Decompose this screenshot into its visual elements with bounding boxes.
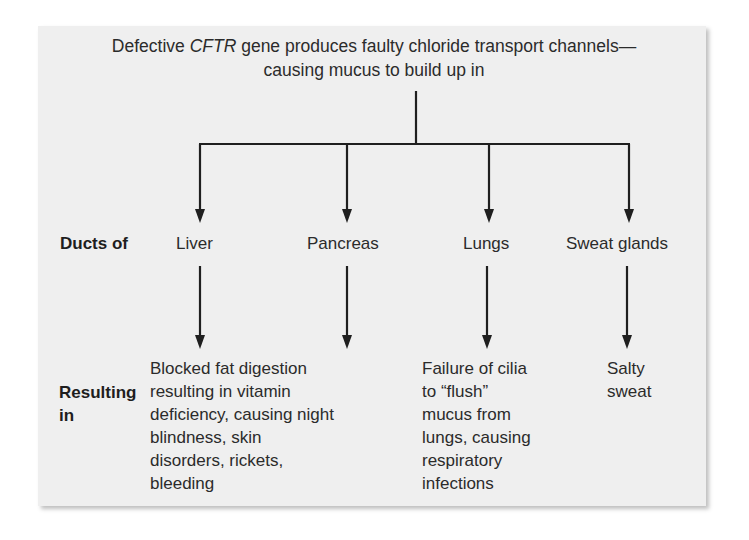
resulting-in-label-line-1: Resulting <box>59 381 136 404</box>
liver-result-line: resulting in vitamin <box>150 380 291 403</box>
lungs-result-line: respiratory <box>422 449 502 472</box>
arrowhead-icon <box>195 209 205 223</box>
organ-sweat-glands: Sweat glands <box>566 232 668 255</box>
sweat-result-line: sweat <box>607 380 651 403</box>
lungs-result-line: lungs, causing <box>422 426 531 449</box>
lungs-result-line: mucus from <box>422 403 511 426</box>
lungs-result-line: to “flush” <box>422 380 488 403</box>
organ-liver: Liver <box>176 232 213 255</box>
arrowhead-icon <box>624 209 634 223</box>
liver-result-line: bleeding <box>150 472 214 495</box>
organ-pancreas: Pancreas <box>307 232 379 255</box>
arrowhead-icon <box>484 209 494 223</box>
liver-result-line: deficiency, causing night <box>150 403 334 426</box>
arrowhead-icon <box>342 209 352 223</box>
organ-lungs: Lungs <box>463 232 509 255</box>
arrowhead-icon <box>342 335 352 349</box>
liver-result-line: disorders, rickets, <box>150 449 283 472</box>
lungs-result-line: Failure of cilia <box>422 357 527 380</box>
tree-connectors <box>0 0 749 540</box>
arrowhead-icon <box>622 335 632 349</box>
resulting-in-label-line-2: in <box>59 404 74 427</box>
sweat-result-line: Salty <box>607 357 645 380</box>
arrowheads <box>195 209 634 349</box>
arrowhead-icon <box>195 335 205 349</box>
lungs-result-line: infections <box>422 472 494 495</box>
arrowhead-icon <box>482 335 492 349</box>
liver-result-line: Blocked fat digestion <box>150 357 307 380</box>
ducts-of-label: Ducts of <box>60 232 128 255</box>
liver-result-line: blindness, skin <box>150 426 262 449</box>
